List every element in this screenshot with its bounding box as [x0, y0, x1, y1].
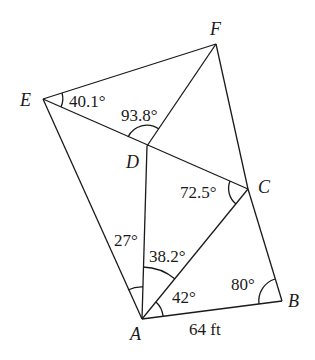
- angle-arc-B: [259, 279, 275, 304]
- side-length-AB: 64 ft: [189, 320, 221, 339]
- segment-DF: [147, 44, 216, 146]
- diagram-canvas: F E D C B A 40.1° 93.8° 72.5° 27° 38.2° …: [0, 0, 315, 360]
- angle-label-E: 40.1°: [69, 92, 106, 111]
- angle-label-A-left: 27°: [114, 231, 138, 250]
- angle-arc-C: [229, 181, 236, 204]
- point-label-A: A: [129, 324, 142, 344]
- point-label-E: E: [19, 90, 31, 110]
- segment-AE: [43, 99, 142, 319]
- angle-label-A-right: 42°: [172, 288, 196, 307]
- angle-arc-A-left: [128, 287, 143, 290]
- point-label-B: B: [288, 291, 299, 311]
- point-label-C: C: [258, 177, 271, 197]
- segment-FC: [216, 44, 248, 189]
- segment-AD: [142, 146, 147, 319]
- angle-label-B: 80°: [231, 275, 255, 294]
- angle-arc-E: [61, 93, 63, 107]
- angle-arc-A-mid: [143, 267, 175, 279]
- point-label-D: D: [125, 152, 139, 172]
- point-label-F: F: [209, 19, 222, 39]
- segment-BA: [142, 301, 282, 319]
- geometry-diagram: F E D C B A 40.1° 93.8° 72.5° 27° 38.2° …: [0, 0, 315, 360]
- segment-EF: [43, 44, 216, 99]
- angle-label-D: 93.8°: [121, 106, 158, 125]
- angle-label-A-mid: 38.2°: [149, 247, 186, 266]
- angle-label-C: 72.5°: [180, 183, 217, 202]
- angle-arc-A-right: [156, 302, 163, 316]
